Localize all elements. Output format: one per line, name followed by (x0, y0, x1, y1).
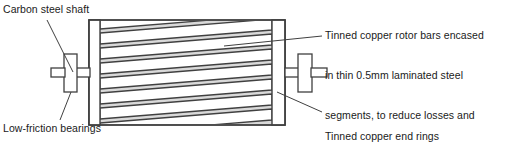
end-ring-left (89, 20, 100, 125)
shaft-left-inner (76, 68, 90, 77)
diagram-page: Carbon steel shaft Low-friction bearings… (0, 0, 513, 148)
right-shaft-bearing-assembly (285, 54, 327, 92)
leader-line-low-friction-bearings (60, 92, 71, 120)
label-carbon-steel-shaft: Carbon steel shaft (3, 3, 89, 16)
leader-line-carbon-steel-shaft (47, 20, 73, 72)
label-rotor-bars-line-1: Tinned copper rotor bars encased (325, 29, 484, 42)
label-rotor-bars-line-2: in thin 0.5mm laminated steel (325, 69, 484, 82)
left-shaft-bearing-assembly (51, 54, 90, 92)
bearing-right (298, 54, 312, 92)
shaft-left-outer (51, 68, 65, 77)
label-low-friction-bearings: Low-friction bearings (3, 122, 101, 135)
bearing-left (64, 54, 77, 92)
label-end-rings: Tinned copper end rings short out the ro… (325, 104, 439, 148)
end-ring-right (272, 20, 285, 125)
rotor-assembly (89, 4, 285, 134)
label-end-rings-line-1: Tinned copper end rings (325, 130, 439, 143)
shaft-right-inner (285, 68, 299, 77)
